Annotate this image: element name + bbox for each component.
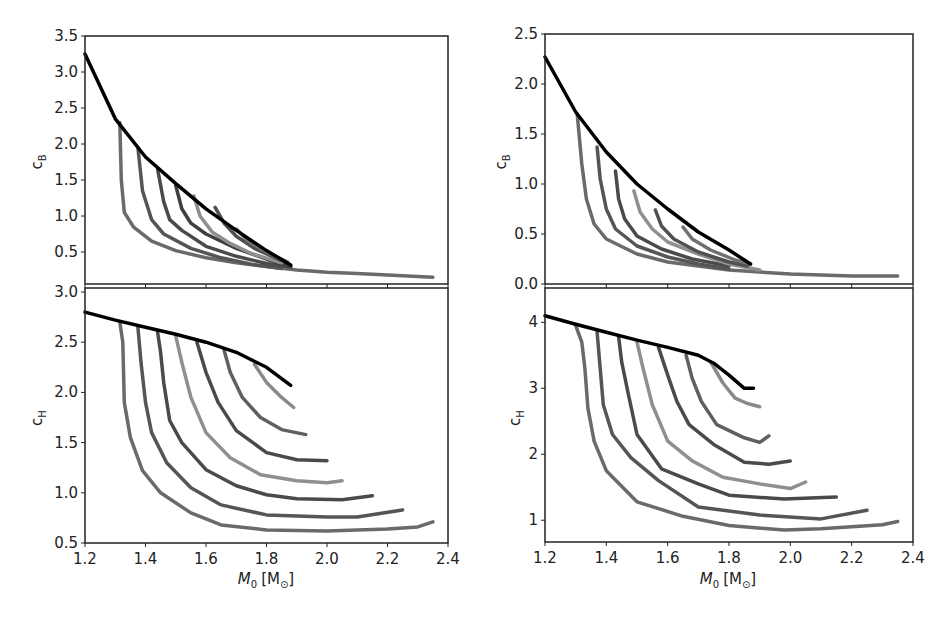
ylabel-bottom-left: cH <box>28 410 48 426</box>
series-envelope <box>545 57 751 264</box>
xtick-label: 1.6 <box>656 549 680 567</box>
xtick-label: 2.4 <box>436 550 460 568</box>
panel-top-right: 0.00.51.01.52.02.5 <box>514 25 913 293</box>
ytick-label: 3.0 <box>54 283 78 301</box>
ylabel-bottom-right: cH <box>506 410 526 426</box>
axes-frame <box>545 288 913 542</box>
series-track-6 <box>686 355 769 442</box>
xtick-label: 1.6 <box>194 550 218 568</box>
ytick-label: 0.0 <box>514 275 538 293</box>
xtick-label: 2.2 <box>840 549 864 567</box>
figure: 0.51.01.52.02.53.03.5 0.51.01.52.02.53.0… <box>0 0 950 617</box>
xtick-label: 2.0 <box>778 549 802 567</box>
ytick-label: 1.5 <box>514 125 538 143</box>
xtick-label: 1.8 <box>717 549 741 567</box>
ylabel-top-right: cB <box>492 154 512 169</box>
ytick-label: 0.5 <box>514 225 538 243</box>
series-track-2 <box>597 332 867 519</box>
xtick-label: 1.8 <box>255 550 279 568</box>
series-track-5 <box>659 347 791 464</box>
ytick-label: 3.5 <box>54 27 78 45</box>
panel-bottom-right: 12341.21.41.61.82.02.22.4 <box>528 288 924 567</box>
xlabel-bottom-left: M0[M⊙] <box>238 570 294 590</box>
ytick-label: 3.0 <box>54 63 78 81</box>
ytick-label: 2.5 <box>54 99 78 117</box>
axes-frame <box>545 34 913 284</box>
xtick-label: 1.2 <box>533 549 557 567</box>
series-track-1 <box>577 114 898 276</box>
ytick-label: 1.0 <box>54 207 78 225</box>
ytick-label: 2.0 <box>54 135 78 153</box>
ytick-label: 1 <box>528 511 538 529</box>
ytick-label: 1.0 <box>54 484 78 502</box>
series-track-1 <box>120 122 433 277</box>
ytick-label: 0.5 <box>54 243 78 261</box>
ytick-label: 2.0 <box>54 383 78 401</box>
series-track-6 <box>224 350 306 434</box>
series-track-1 <box>576 326 898 530</box>
ytick-label: 2.0 <box>514 75 538 93</box>
ytick-label: 4 <box>528 313 538 331</box>
ytick-label: 2.5 <box>54 333 78 351</box>
ytick-label: 1.5 <box>54 171 78 189</box>
ytick-label: 1.0 <box>514 175 538 193</box>
xtick-label: 1.4 <box>594 549 618 567</box>
ytick-label: 1.5 <box>54 434 78 452</box>
panel-top-left: 0.51.01.52.02.53.03.5 <box>54 27 448 288</box>
xtick-label: 2.2 <box>376 550 400 568</box>
ytick-label: 3 <box>528 379 538 397</box>
ylabel-top-left: cB <box>28 154 48 169</box>
ytick-label: 2.5 <box>514 25 538 43</box>
xlabel-bottom-right: M0[M⊙] <box>700 570 756 590</box>
panel-bottom-left: 0.51.01.52.02.53.01.21.41.61.82.02.22.4 <box>54 283 460 568</box>
xtick-label: 2.4 <box>901 549 925 567</box>
xtick-label: 1.4 <box>134 550 158 568</box>
xtick-label: 1.2 <box>73 550 97 568</box>
ytick-label: 2 <box>528 445 538 463</box>
xtick-label: 2.0 <box>315 550 339 568</box>
